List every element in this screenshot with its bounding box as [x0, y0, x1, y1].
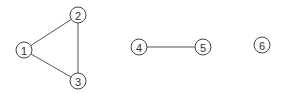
node-label: 6: [259, 40, 265, 52]
nodes-layer: 123456: [16, 7, 270, 89]
node-label: 4: [136, 42, 142, 54]
node-2: 2: [70, 7, 86, 23]
node-6: 6: [254, 37, 270, 53]
edges-layer: [31, 19, 195, 77]
node-label: 5: [200, 42, 206, 54]
node-label: 2: [75, 10, 81, 22]
node-4: 4: [131, 39, 147, 55]
edge-1-2: [31, 19, 72, 45]
node-5: 5: [195, 39, 211, 55]
edge-1-3: [31, 54, 71, 77]
node-1: 1: [16, 42, 32, 58]
node-label: 1: [21, 45, 27, 57]
node-3: 3: [70, 73, 86, 89]
graph-diagram: 123456: [0, 0, 286, 95]
node-label: 3: [75, 76, 81, 88]
